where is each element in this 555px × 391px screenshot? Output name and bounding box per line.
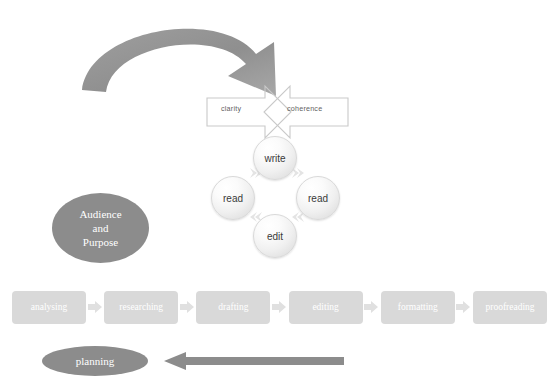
cycle-node-edit[interactable]: edit: [253, 214, 297, 258]
process-step-editing[interactable]: editing: [289, 291, 363, 324]
clarity-label: clarity: [221, 104, 241, 113]
cycle-node-write-label: write: [264, 153, 285, 164]
audience-line-2: and: [93, 221, 109, 235]
process-step-editing-label: editing: [312, 302, 338, 312]
chevron-right-icon: [272, 300, 287, 314]
process-separator-5: [455, 300, 473, 314]
chevron-right-icon: [364, 300, 379, 314]
planning-label: planning: [76, 355, 115, 367]
cycle-node-read-right-label: read: [308, 193, 328, 204]
process-step-proofreading[interactable]: proofreading: [473, 291, 547, 324]
coherence-label: coherence: [287, 104, 322, 113]
process-separator-4: [363, 300, 381, 314]
process-step-analysing[interactable]: analysing: [12, 291, 86, 324]
process-separator-3: [270, 300, 288, 314]
process-step-proofreading-label: proofreading: [485, 302, 534, 312]
chevron-right-icon: [456, 300, 471, 314]
audience-and-purpose-ellipse[interactable]: Audience and Purpose: [52, 193, 149, 263]
cycle-node-read-left-label: read: [223, 193, 243, 204]
chevron-right-icon: [88, 300, 103, 314]
cycle-node-write[interactable]: write: [253, 136, 297, 180]
cycle-node-edit-label: edit: [267, 231, 283, 242]
audience-line-1: Audience: [79, 207, 121, 221]
process-step-drafting-label: drafting: [218, 302, 248, 312]
process-separator-2: [178, 300, 196, 314]
process-step-drafting[interactable]: drafting: [196, 291, 270, 324]
chevron-right-icon: [180, 300, 195, 314]
writing-process-chain: analysing researching drafting editing: [12, 290, 547, 324]
diagram-canvas: clarity coherence write read edit read A…: [0, 0, 555, 391]
process-step-analysing-label: analysing: [31, 302, 67, 312]
process-step-formatting-label: formatting: [398, 302, 438, 312]
process-step-formatting[interactable]: formatting: [381, 291, 455, 324]
planning-ellipse[interactable]: planning: [42, 346, 148, 376]
audience-line-3: Purpose: [83, 235, 118, 249]
process-step-researching-label: researching: [119, 302, 163, 312]
cycle-node-read-left[interactable]: read: [211, 176, 255, 220]
process-separator-1: [86, 300, 104, 314]
revision-loop-arrow-icon: [162, 350, 344, 372]
process-step-researching[interactable]: researching: [104, 291, 178, 324]
cycle-node-read-right[interactable]: read: [296, 176, 340, 220]
